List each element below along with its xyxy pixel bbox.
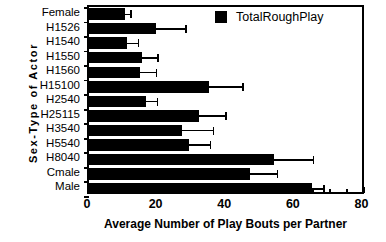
x-tick-label: 20 [149,197,163,211]
bar-row [89,109,363,124]
x-minor-tick-mark [192,189,194,193]
x-axis-title: Average Number of Play Bouts per Partner [87,217,364,231]
legend-swatch-TotalRoughPlay [215,11,227,23]
y-tick-label: Female [42,5,80,20]
x-tick-label: 40 [217,197,231,211]
x-minor-tick-mark [209,189,211,193]
x-tick-mark [226,187,228,193]
error-bar-cap [156,69,158,77]
error-bar-line [140,72,156,74]
bar [89,8,125,20]
bar [89,139,189,151]
bar [89,81,209,93]
error-bar-line [250,173,277,175]
error-bar-cap [213,127,215,135]
bar [89,52,142,64]
x-minor-tick-mark [140,189,142,193]
y-tick-mark [84,109,89,111]
y-tick-mark [84,51,89,53]
bar-row [89,152,363,167]
y-tick-label: H5540 [46,136,80,151]
error-bar-cap [130,10,132,18]
y-tick-mark [84,7,89,9]
y-tick-label: H3540 [46,121,80,136]
bar-series-TotalRoughPlay [89,7,362,192]
y-tick-mark [84,167,89,169]
y-tick-mark [84,138,89,140]
y-tick-mark [84,22,89,24]
error-bar-cap [157,54,159,62]
y-tick-mark [84,94,89,96]
y-tick-label: H15100 [40,78,80,93]
y-tick-label: Male [55,179,80,194]
error-bar-cap [313,156,315,164]
y-tick-label: H1526 [46,20,80,35]
bar-row [89,94,363,109]
y-tick-label: H1540 [46,34,80,49]
y-tick-label: H1550 [46,49,80,64]
error-bar-line [142,57,158,59]
x-minor-tick-mark [346,189,348,193]
x-minor-tick-mark [312,189,314,193]
y-tick-label: H8040 [46,150,80,165]
error-bar-cap [138,39,140,47]
y-tick-label: H1560 [46,63,80,78]
error-bar-line [156,28,186,30]
bar [89,96,146,108]
bar [89,154,274,166]
legend: TotalRoughPlay [215,10,324,24]
bar [89,168,250,180]
x-tick-label: 0 [84,197,91,211]
x-minor-tick-mark [278,189,280,193]
x-minor-tick-mark [123,189,125,193]
bar-row [89,80,363,95]
error-bar-cap [210,141,212,149]
error-bar-cap [225,112,227,120]
x-minor-tick-mark [106,189,108,193]
x-minor-tick-mark [175,189,177,193]
x-minor-tick-mark [329,189,331,193]
x-minor-tick-mark [261,189,263,193]
x-axis-tick-labels: 020406080 [0,197,386,213]
bar-row [89,51,363,66]
error-bar-line [199,115,226,117]
error-bar-cap [277,170,279,178]
y-tick-label: H2540 [46,92,80,107]
error-bar-cap [157,98,159,106]
y-tick-mark [84,181,89,183]
x-tick-mark [89,187,91,193]
error-bar-cap [323,185,325,193]
x-tick-mark [364,187,366,193]
error-bar-line [182,130,214,132]
bar-row [89,138,363,153]
bar [89,67,140,79]
x-tick-mark [158,187,160,193]
y-axis-tick-labels: FemaleH1526H1540H1550H1560H15100H2540H25… [0,4,83,194]
error-bar-cap [242,83,244,91]
chart-figure: Sex-Type of Actor FemaleH1526H1540H1550H… [0,0,386,242]
y-tick-mark [84,80,89,82]
error-bar-line [189,144,211,146]
bar [89,110,199,122]
bar [89,37,127,49]
bar-row [89,36,363,51]
x-tick-mark [295,187,297,193]
y-tick-mark [84,65,89,67]
bar-row [89,167,363,182]
y-tick-label: H25115 [41,107,80,122]
bar-row [89,65,363,80]
error-bar-cap [185,25,187,33]
legend-label-TotalRoughPlay: TotalRoughPlay [236,10,324,24]
x-tick-label: 80 [355,197,369,211]
error-bar-line [274,159,313,161]
error-bar-line [209,86,243,88]
y-tick-mark [84,152,89,154]
bar [89,23,156,35]
plot-area [87,5,364,194]
y-tick-label: Cmale [47,165,80,180]
bar [89,125,182,137]
bar-row [89,123,363,138]
x-minor-tick-mark [243,189,245,193]
x-tick-label: 60 [286,197,300,211]
y-tick-mark [84,36,89,38]
